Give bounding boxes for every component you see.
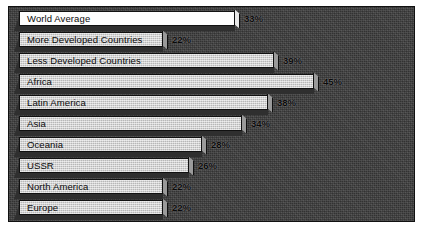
- bar-6[interactable]: Asia: [19, 116, 242, 131]
- bar-row: Asia: [9, 116, 414, 137]
- bar-category-label: More Developed Countries: [20, 33, 142, 46]
- bar-face[interactable]: More Developed Countries: [19, 32, 163, 47]
- bar-face[interactable]: Oceania: [19, 137, 202, 152]
- bar-value-label: 33%: [244, 13, 263, 24]
- plot-area: World Average33%More Developed Countries…: [8, 6, 415, 222]
- bar-value-label: 34%: [251, 118, 270, 129]
- bar-7[interactable]: Oceania: [19, 137, 202, 152]
- bar-category-label: USSR: [20, 159, 54, 172]
- bar-4[interactable]: Africa: [19, 74, 314, 89]
- bar-face[interactable]: North America: [19, 179, 163, 194]
- bar-1[interactable]: World Average: [19, 11, 235, 26]
- bar-face[interactable]: Latin America: [19, 95, 268, 110]
- bar-chart: World Average33%More Developed Countries…: [0, 0, 426, 235]
- bar-face[interactable]: Africa: [19, 74, 314, 89]
- bar-face[interactable]: Europe: [19, 200, 163, 215]
- bar-category-label: Latin America: [20, 96, 86, 109]
- bar-value-label: 22%: [172, 34, 191, 45]
- bar-category-label: North America: [20, 180, 89, 193]
- bar-category-label: Europe: [20, 201, 58, 214]
- bar-value-label: 39%: [283, 55, 302, 66]
- bar-value-label: 22%: [172, 181, 191, 192]
- bar-row: More Developed Countries: [9, 32, 414, 53]
- bar-category-label: Asia: [20, 117, 46, 130]
- bar-face[interactable]: USSR: [19, 158, 189, 173]
- bar-value-label: 38%: [277, 97, 296, 108]
- bar-10[interactable]: Europe: [19, 200, 163, 215]
- bar-5[interactable]: Latin America: [19, 95, 268, 110]
- bar-value-label: 28%: [211, 139, 230, 150]
- bar-value-label: 45%: [323, 76, 342, 87]
- bar-value-label: 26%: [198, 160, 217, 171]
- bar-9[interactable]: North America: [19, 179, 163, 194]
- bar-face[interactable]: World Average: [19, 11, 235, 26]
- bar-face[interactable]: Asia: [19, 116, 242, 131]
- bar-row: Africa: [9, 74, 414, 95]
- bar-row: Europe: [9, 200, 414, 221]
- bar-row: World Average: [9, 11, 414, 32]
- bar-category-label: World Average: [20, 12, 90, 25]
- bar-8[interactable]: USSR: [19, 158, 189, 173]
- bar-row: Latin America: [9, 95, 414, 116]
- bar-3[interactable]: Less Developed Countries: [19, 53, 274, 68]
- bar-category-label: Less Developed Countries: [20, 54, 141, 67]
- bar-value-label: 22%: [172, 202, 191, 213]
- bar-row: North America: [9, 179, 414, 200]
- bar-2[interactable]: More Developed Countries: [19, 32, 163, 47]
- bar-category-label: Oceania: [20, 138, 63, 151]
- bar-face[interactable]: Less Developed Countries: [19, 53, 274, 68]
- bar-row: Less Developed Countries: [9, 53, 414, 74]
- bar-category-label: Africa: [20, 75, 52, 88]
